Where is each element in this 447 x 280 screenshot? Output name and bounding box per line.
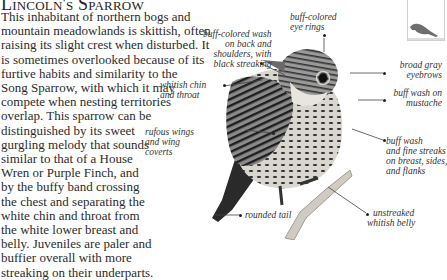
description-line: buffier overall with more [1,251,226,265]
label-wings: rufous wings and wing coverts [145,127,194,157]
callout-dot [323,34,326,37]
label-mustache: buff wash on mustache [380,88,442,108]
callout-dot [223,84,226,87]
label-breast: buff wash and fine streaks on breast, si… [386,136,447,176]
label-tail: rounded tail [245,210,291,220]
label-back-shoulders: buff-colored wash on back and shoulders,… [203,29,272,69]
label-eye-rings: buff-colored eye rings [290,12,337,32]
bird-silhouette-icon [408,0,444,40]
callout-dot [272,132,275,135]
bird-size-thumbnail [407,0,445,41]
callout-dot [239,214,242,217]
description-line: streaking on their underparts. [1,266,226,280]
label-eyebrows: broad gray eyebrows [384,60,442,80]
label-belly: unstreaked whitish belly [367,208,415,228]
label-chin-throat: whitish chin and throat [160,80,206,100]
